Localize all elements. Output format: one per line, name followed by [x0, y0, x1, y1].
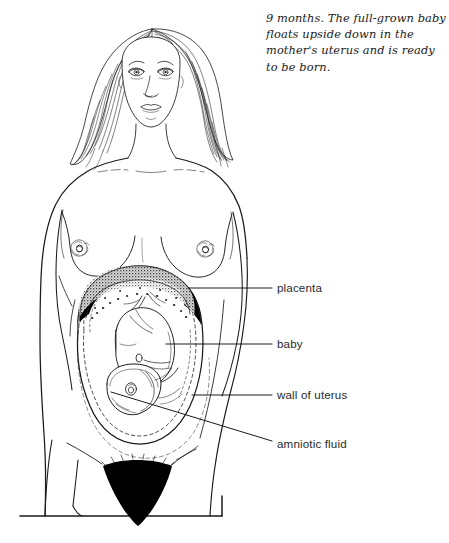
nipple-right [197, 241, 214, 257]
pubic-hair [67, 443, 198, 526]
leader-amniotic [111, 392, 272, 441]
label-placenta: placenta [277, 281, 322, 294]
collarbone [98, 170, 204, 173]
fetus-baby [107, 308, 182, 415]
nipple-left [71, 240, 89, 256]
pregnancy-figure [0, 0, 449, 543]
figure-caption: 9 months. The full-grown baby floats ups… [266, 10, 446, 75]
label-baby: baby [277, 337, 303, 350]
illustration-page: 9 months. The full-grown baby floats ups… [0, 0, 449, 543]
label-wall-of-uterus: wall of uterus [277, 388, 347, 401]
label-amniotic-fluid: amniotic fluid [277, 437, 347, 450]
face [119, 37, 184, 127]
